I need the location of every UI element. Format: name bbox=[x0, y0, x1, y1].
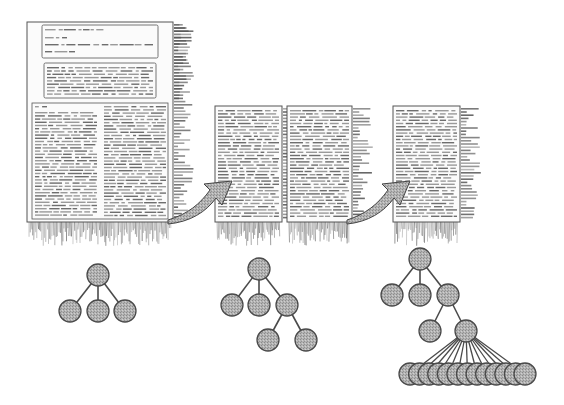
tree-1 bbox=[59, 264, 136, 322]
tree-node bbox=[59, 300, 81, 322]
page-3 bbox=[287, 106, 373, 245]
page-1 bbox=[27, 22, 194, 246]
tree-2 bbox=[221, 258, 317, 351]
tree-node bbox=[87, 264, 109, 286]
tree-leaf-node bbox=[514, 363, 536, 385]
tree-node bbox=[295, 329, 317, 351]
tree-node bbox=[409, 248, 431, 270]
tree-node bbox=[248, 294, 270, 316]
document-tree-diagram bbox=[0, 0, 564, 405]
page-4 bbox=[393, 106, 481, 246]
tree-node bbox=[409, 284, 431, 306]
tree-node bbox=[276, 294, 298, 316]
tree-node bbox=[257, 329, 279, 351]
tree-node bbox=[114, 300, 136, 322]
pages-layer bbox=[27, 22, 481, 246]
trees-layer bbox=[59, 248, 536, 385]
tree-node bbox=[419, 320, 441, 342]
tree-node bbox=[221, 294, 243, 316]
tree-node bbox=[381, 284, 403, 306]
tree-node bbox=[87, 300, 109, 322]
tree-3 bbox=[381, 248, 536, 385]
tree-node bbox=[437, 284, 459, 306]
tree-node bbox=[455, 320, 477, 342]
tree-node bbox=[248, 258, 270, 280]
